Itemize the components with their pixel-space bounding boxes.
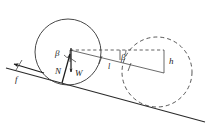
label-friction: f: [15, 74, 19, 84]
label-height-h: h: [169, 56, 174, 66]
wheel-final-position: [122, 37, 192, 107]
inclined-plane-free-body-diagram: β β N W f l h: [0, 0, 210, 136]
label-length-l: l: [108, 62, 111, 71]
label-beta-left: β: [54, 48, 60, 58]
wheel-initial-position: [35, 19, 101, 85]
physics-diagram-canvas: β β N W f l h: [0, 0, 210, 136]
label-weight: W: [75, 68, 84, 78]
label-beta-right: β: [120, 52, 126, 62]
inclined-plane-surface: [6, 68, 205, 122]
displacement-connector: [70, 50, 164, 73]
label-normal-force: N: [54, 66, 62, 76]
normal-force-vector: [62, 54, 70, 83]
